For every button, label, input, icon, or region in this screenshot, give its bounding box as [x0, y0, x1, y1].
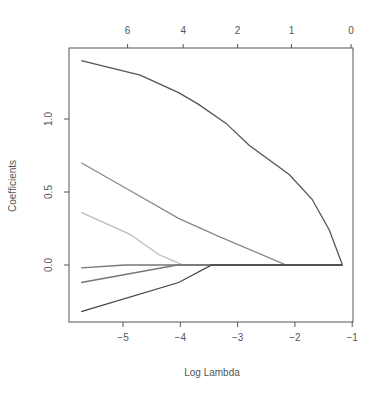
x-tick-label: −1 — [346, 332, 358, 343]
plot-box — [69, 48, 353, 322]
x-tick-label: −3 — [232, 332, 244, 343]
y-axis: 0.00.51.0 — [43, 112, 69, 272]
top-tick-label: 1 — [289, 25, 295, 36]
y-tick-label: 1.0 — [43, 112, 54, 126]
x-tick-label: −2 — [289, 332, 301, 343]
series-line-coef3 — [81, 212, 342, 265]
lasso-coefficient-path-chart: −5−4−3−2−1 0.00.51.0 64210 Log Lambda Co… — [0, 0, 375, 393]
top-tick-label: 0 — [348, 25, 354, 36]
series-line-coef5 — [81, 265, 342, 283]
x-axis: −5−4−3−2−1 — [117, 322, 358, 343]
y-tick-label: 0.0 — [43, 258, 54, 272]
top-axis-df: 64210 — [125, 25, 354, 48]
x-tick-label: −4 — [175, 332, 187, 343]
plot-frame — [69, 48, 353, 322]
y-axis-label: Coefficients — [7, 160, 18, 212]
series-line-coef6 — [81, 265, 342, 312]
top-tick-label: 2 — [235, 25, 241, 36]
x-axis-label: Log Lambda — [184, 367, 240, 378]
series-line-coef1 — [81, 61, 342, 265]
x-tick-label: −5 — [117, 332, 129, 343]
series-line-coef2 — [81, 163, 342, 265]
y-tick-label: 0.5 — [43, 185, 54, 199]
top-tick-label: 4 — [180, 25, 186, 36]
series-lines — [81, 61, 342, 312]
top-tick-label: 6 — [125, 25, 131, 36]
